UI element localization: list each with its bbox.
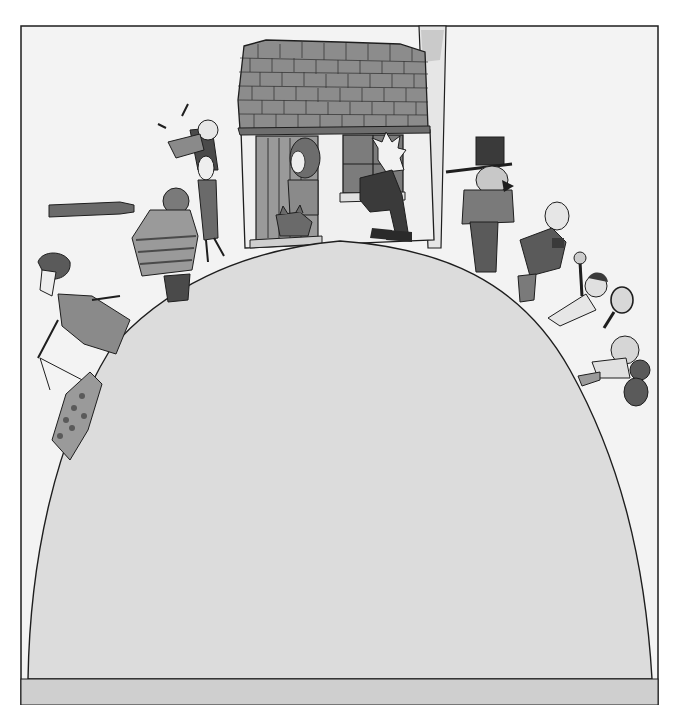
- ground-band: [21, 679, 658, 705]
- tennis-racket-icon: [611, 287, 633, 313]
- tiled-roof: [238, 40, 428, 130]
- house: [238, 40, 434, 248]
- illustration: [0, 0, 682, 705]
